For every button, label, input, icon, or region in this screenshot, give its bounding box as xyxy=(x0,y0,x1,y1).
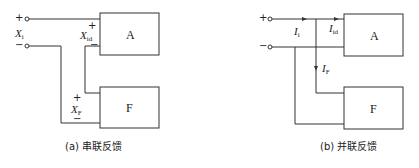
input-minus-sign: − xyxy=(15,40,23,50)
input-minus-sign: − xyxy=(259,41,267,51)
net-input-current-label: Iid xyxy=(329,23,338,36)
caption-shunt-feedback: (b) 并联反馈 xyxy=(320,142,377,152)
terminal-plus-icon xyxy=(25,17,29,21)
return-wire xyxy=(295,47,344,124)
arrow-ii-icon xyxy=(302,17,307,21)
input-plus-sign: + xyxy=(15,13,23,23)
terminal-plus-icon xyxy=(268,17,272,21)
feedback-minus-sign: − xyxy=(73,114,81,124)
arrow-iid-icon xyxy=(334,17,339,21)
feedback-current-label: IF xyxy=(322,63,330,76)
terminal-minus-icon xyxy=(25,44,29,48)
arrow-if-icon xyxy=(314,66,318,71)
terminal-minus-icon xyxy=(268,45,272,49)
feedback-plus-sign: + xyxy=(73,93,81,103)
input-minus-wire xyxy=(29,46,100,123)
amplifier-label: A xyxy=(126,29,135,41)
input-plus-sign: + xyxy=(259,13,267,23)
input-signal-label: Xi xyxy=(15,28,24,41)
amplifier-label: A xyxy=(370,30,379,42)
input-current-label: Ii xyxy=(294,26,300,39)
diff-minus-sign: − xyxy=(90,40,98,50)
feedback-loop-wire xyxy=(85,46,100,93)
caption-series-feedback: (a) 串联反馈 xyxy=(65,142,122,152)
feedback-block-label: F xyxy=(126,102,133,114)
feedback-block-label: F xyxy=(370,103,377,115)
